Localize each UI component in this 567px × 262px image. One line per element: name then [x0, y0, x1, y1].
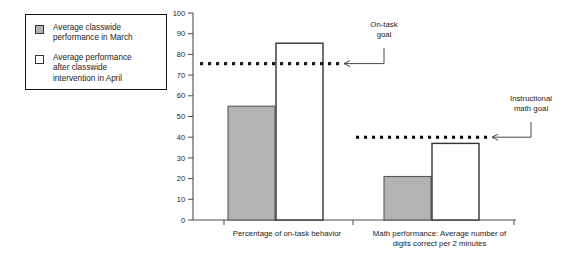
bar-april-on-task: [276, 43, 323, 220]
y-tick-label: 0: [181, 216, 185, 225]
y-tick-label: 30: [177, 154, 185, 163]
bar-march-math: [384, 177, 431, 221]
plot-area: 0 10 20 30 40 50 60 70 80 90 100: [0, 0, 567, 262]
bar-chart-figure: Average classwide performance in March A…: [0, 0, 567, 262]
annotation-instructional-math-goal: Instructional math goal: [492, 94, 567, 114]
y-tick-label: 60: [177, 91, 185, 100]
annotation-on-task-goal: On-task goal: [352, 20, 416, 40]
x-axis-group-ticks: [224, 220, 514, 225]
y-tick-label: 70: [177, 71, 185, 80]
y-tick-label: 100: [173, 9, 185, 18]
y-tick-label: 90: [177, 29, 185, 38]
category-label-math: Math performance: Average number of digi…: [352, 229, 527, 249]
y-tick-label: 10: [177, 195, 185, 204]
y-tick-label: 80: [177, 50, 185, 59]
y-tick-label: 50: [177, 112, 185, 121]
bar-group-on-task: [228, 43, 323, 220]
reference-line-math-goal: [356, 122, 531, 140]
y-axis-ticks: 0 10 20 30 40 50 60 70 80 90 100: [173, 9, 193, 225]
bar-group-math: [384, 143, 479, 220]
bar-march-on-task: [228, 106, 275, 220]
y-tick-label: 20: [177, 174, 185, 183]
category-label-on-task: Percentage of on-task behavior: [207, 229, 367, 239]
y-tick-label: 40: [177, 133, 185, 142]
bar-april-math: [432, 143, 479, 220]
